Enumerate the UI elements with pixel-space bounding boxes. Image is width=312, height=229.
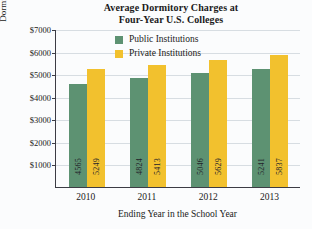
legend-swatch-private-icon (115, 50, 123, 58)
y-axis-tick (52, 120, 56, 121)
bar-private-2010: 5249 (87, 69, 105, 187)
bar-public-2013: 5241 (252, 69, 270, 187)
bar-private-2011: 5413 (148, 65, 166, 187)
bar-value-label: 5837 (275, 158, 284, 175)
y-axis-tick (52, 165, 56, 166)
y-axis-tick (52, 75, 56, 76)
x-axis-title: Ending Year in the School Year (55, 209, 300, 219)
bar-public-2010: 4565 (69, 84, 87, 187)
x-axis-tick-label: 2012 (178, 192, 238, 202)
bar-value-label: 5413 (152, 158, 161, 175)
y-axis-tick-label: $3000 (30, 115, 51, 125)
bar-public-2011: 4824 (130, 78, 148, 187)
bar-value-label: 5249 (91, 158, 100, 175)
y-axis-tick-label: $5000 (30, 70, 51, 80)
chart-legend: Public Institutions Private Institutions (115, 33, 201, 61)
x-axis-tick-label: 2013 (239, 192, 299, 202)
x-axis-tick-label: 2011 (117, 192, 177, 202)
chart-title: Average Dormitory Charges at Four-Year U… (46, 2, 296, 25)
bar-private-2012: 5629 (209, 60, 227, 187)
y-axis-tick (52, 98, 56, 99)
bar-chart: Average Dormitory Charges at Four-Year U… (0, 0, 312, 229)
bar-value-label: 5241 (257, 158, 266, 175)
y-axis-tick (52, 143, 56, 144)
legend-swatch-public-icon (115, 36, 123, 44)
y-axis-tick-label: $6000 (30, 47, 51, 57)
chart-title-line-2: Four-Year U.S. Colleges (46, 14, 296, 26)
x-axis-tick-label: 2010 (56, 192, 116, 202)
y-axis-tick (52, 30, 56, 31)
bar-public-2012: 5046 (191, 73, 209, 187)
y-axis-tick (52, 53, 56, 54)
bar-value-label: 5629 (214, 158, 223, 175)
y-axis-tick-label: $7000 (30, 25, 51, 35)
chart-title-line-1: Average Dormitory Charges at (46, 2, 296, 14)
y-axis-tick-label: $4000 (30, 93, 51, 103)
bar-value-label: 5046 (196, 158, 205, 175)
legend-item-public: Public Institutions (115, 33, 201, 46)
legend-label-private: Private Institutions (129, 47, 201, 60)
legend-item-private: Private Institutions (115, 47, 201, 60)
gridline (56, 30, 300, 31)
y-axis-title: Dormitory Charges (0, 0, 8, 52)
bar-value-label: 4565 (73, 158, 82, 175)
bar-private-2013: 5837 (270, 55, 288, 187)
y-axis-tick-label: $2000 (30, 138, 51, 148)
bar-value-label: 4824 (134, 158, 143, 175)
legend-label-public: Public Institutions (129, 33, 198, 46)
y-axis-tick-label: $1000 (30, 160, 51, 170)
